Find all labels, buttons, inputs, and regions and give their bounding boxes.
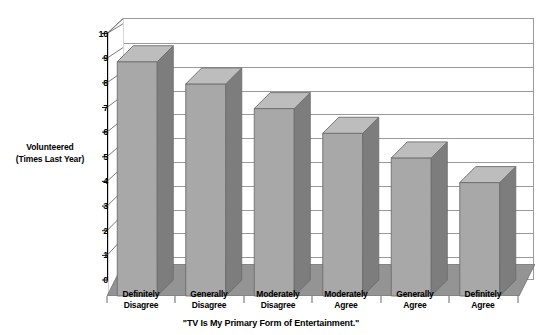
plot-area: 0 1 2 3 4 5 6 7 8 9 10 <box>0 0 542 335</box>
x-category-label-1-line-1: Generally <box>175 289 243 300</box>
x-category-label-2: Moderately Disagree <box>244 289 312 311</box>
x-axis-category-labels: Definitely Disagree Generally Disagree M… <box>0 289 542 319</box>
x-axis-tick-marks <box>0 0 542 335</box>
x-category-label-4-line-1: Generally <box>381 289 449 300</box>
bar-chart: Volunteered (Times Last Year) <box>0 0 542 335</box>
x-category-label-0-line-2: Disagree <box>107 300 175 311</box>
x-axis-title: "TV Is My Primary Form of Entertainment.… <box>0 318 542 328</box>
x-category-label-1-line-2: Disagree <box>175 300 243 311</box>
x-category-label-2-line-1: Moderately <box>244 289 312 300</box>
x-category-label-3-line-2: Agree <box>312 300 380 311</box>
x-category-label-5: Definitely Agree <box>449 289 517 311</box>
x-category-label-5-line-2: Agree <box>449 300 517 311</box>
x-category-label-4: Generally Agree <box>381 289 449 311</box>
x-category-label-5-line-1: Definitely <box>449 289 517 300</box>
x-category-label-4-line-2: Agree <box>381 300 449 311</box>
x-category-label-3: Moderately Agree <box>312 289 380 311</box>
x-category-label-3-line-1: Moderately <box>312 289 380 300</box>
x-category-label-0: Definitely Disagree <box>107 289 175 311</box>
x-category-label-2-line-2: Disagree <box>244 300 312 311</box>
x-category-label-0-line-1: Definitely <box>107 289 175 300</box>
x-category-label-1: Generally Disagree <box>175 289 243 311</box>
